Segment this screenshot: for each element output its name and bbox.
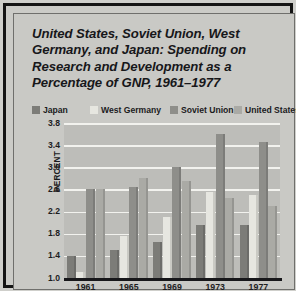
y-tick-label: 1.0 [38, 274, 60, 283]
y-tick-label: 1.8 [38, 229, 60, 238]
bar-united-states-1965 [139, 178, 148, 278]
bar-united-states-1969 [182, 181, 191, 278]
bar-west-germany-1977 [249, 195, 258, 278]
legend-label: Soviet Union [181, 105, 234, 115]
y-tick-label: 3.0 [38, 163, 60, 172]
bar-west-germany-1969 [163, 217, 172, 278]
legend-swatch-icon [170, 106, 178, 114]
gridline [64, 123, 280, 125]
bar-west-germany-1973 [206, 192, 215, 278]
plot-area [64, 123, 280, 278]
legend-item-soviet-union[interactable]: Soviet Union [170, 99, 234, 112]
y-tick-label: 1.4 [38, 251, 60, 260]
bar-shading-edge [189, 181, 191, 278]
x-tick-label-1965: 1965 [109, 282, 149, 291]
legend-item-japan[interactable]: Japan [32, 99, 68, 112]
bar-shading-edge [275, 206, 277, 278]
bar-soviet-union-1969 [172, 167, 181, 278]
bar-japan-1977 [240, 225, 249, 278]
x-tick-label-1961: 1961 [66, 282, 106, 291]
y-tick-label: 2.6 [38, 185, 60, 194]
bar-japan-1961 [67, 256, 76, 278]
plot-wrapper: PERCENT 1.01.41.82.22.63.03.43.8 1961196… [32, 115, 296, 287]
bar-soviet-union-1973 [216, 134, 225, 278]
legend-label: West Germany [101, 105, 161, 115]
legend-swatch-icon [32, 106, 40, 114]
x-tick-label-1969: 1969 [152, 282, 192, 291]
y-tick-label: 2.2 [38, 207, 60, 216]
bar-united-states-1961 [96, 189, 105, 278]
bar-japan-1973 [196, 225, 205, 278]
bar-united-states-1977 [268, 206, 277, 278]
bar-japan-1969 [153, 242, 162, 278]
bar-soviet-union-1961 [86, 189, 95, 278]
chart-title: United States, Soviet Union, West German… [32, 26, 294, 91]
y-tick-label: 3.8 [38, 119, 60, 128]
x-axis-line [64, 278, 282, 281]
figure-inner-border: United States, Soviet Union, West German… [13, 13, 295, 290]
chart-figure: United States, Soviet Union, West German… [0, 0, 296, 291]
bar-shading-edge [103, 189, 105, 278]
bar-soviet-union-1977 [259, 142, 268, 278]
bar-united-states-1973 [225, 198, 234, 278]
figure-content: United States, Soviet Union, West German… [22, 22, 296, 291]
bar-west-germany-1965 [120, 236, 129, 278]
chart-legend: JapanWest GermanySoviet UnionUnited Stat… [32, 99, 296, 112]
x-tick-label-1973: 1973 [195, 282, 235, 291]
x-tick-label-1977: 1977 [238, 282, 278, 291]
figure-outer-border: United States, Soviet Union, West German… [3, 3, 293, 288]
legend-label: United States [245, 105, 296, 115]
legend-swatch-icon [234, 106, 242, 114]
bar-soviet-union-1965 [129, 187, 138, 278]
bar-shading-edge [146, 178, 148, 278]
bar-japan-1965 [110, 250, 119, 278]
bar-shading-edge [232, 198, 234, 278]
legend-item-united-states[interactable]: United States [234, 99, 296, 112]
legend-label: Japan [43, 105, 68, 115]
y-tick-label: 3.4 [38, 141, 60, 150]
gridline [64, 145, 280, 147]
legend-item-west-germany[interactable]: West Germany [90, 99, 161, 112]
legend-swatch-icon [90, 106, 98, 114]
